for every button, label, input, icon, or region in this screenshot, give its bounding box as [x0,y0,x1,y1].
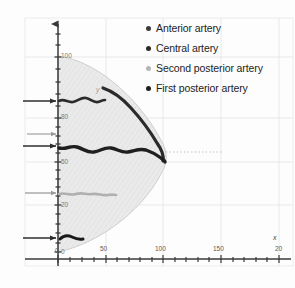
y-axis-label: y [96,86,100,93]
legend-label-first-posterior-artery: First posterior artery [156,83,248,94]
legend-item-central-artery[interactable]: Central artery [146,40,295,57]
xtick-label-0: 0 [55,247,59,254]
xtick-label-200: 20 [275,245,282,252]
arrow-annotations [23,101,56,238]
xtick-label-150: 150 [213,245,224,252]
chart-figure: 100 80 50 20 0 0 50 100 150 20 x y Anter… [0,0,295,288]
legend-label-anterior-artery: Anterior artery [156,23,221,34]
plot-area: 100 80 50 20 0 0 50 100 150 20 x y Anter… [0,0,295,288]
ytick-label-20: 20 [61,201,68,208]
x-axis-label: x [273,234,277,241]
xtick-label-100: 100 [155,245,166,252]
legend-label-central-artery: Central artery [156,43,218,54]
xtick-label-50: 50 [100,245,107,252]
legend-marker-first-posterior-artery [146,86,151,91]
ytick-label-50: 50 [61,158,68,165]
legend-item-first-posterior-artery[interactable]: First posterior artery [146,80,295,97]
ytick-label-100: 100 [61,52,72,59]
legend-marker-anterior-artery [146,26,151,31]
ytick-label-80: 80 [61,113,68,120]
x-axis [25,255,291,263]
chart-legend: Anterior artery Central artery Second po… [146,20,295,100]
ytick-label-0: 0 [61,248,65,255]
legend-item-second-posterior-artery[interactable]: Second posterior artery [146,60,295,77]
legend-label-second-posterior-artery: Second posterior artery [156,63,263,74]
legend-item-anterior-artery[interactable]: Anterior artery [146,20,295,37]
legend-marker-central-artery [146,46,151,51]
legend-marker-second-posterior-artery [146,66,151,71]
